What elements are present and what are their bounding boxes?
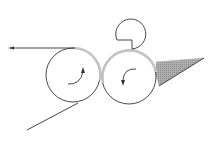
arrow-left-icon bbox=[8, 47, 14, 50]
roller-diagram bbox=[0, 0, 219, 142]
rotation-arrow-icon bbox=[123, 69, 136, 80]
right-roll bbox=[102, 50, 156, 104]
rotation-arrow-icon bbox=[68, 72, 83, 84]
top-roll bbox=[116, 16, 148, 49]
left-roll bbox=[46, 48, 100, 102]
incoming-web bbox=[27, 103, 78, 130]
coating-pool-wedge bbox=[156, 58, 204, 86]
diagram-svg bbox=[0, 0, 219, 142]
